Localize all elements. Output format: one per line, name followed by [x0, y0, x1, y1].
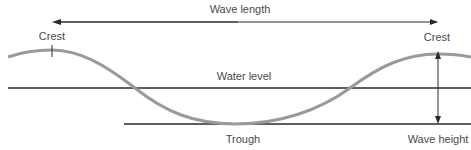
water-level-label: Water level	[217, 71, 272, 82]
wave-height-label: Wave height	[408, 134, 469, 145]
crest-right-label: Crest	[424, 32, 450, 43]
wave-length-arrow-left-head	[52, 19, 61, 25]
crest-left-label: Crest	[39, 31, 65, 42]
wave-length-label: Wave length	[210, 4, 271, 15]
wave-curve	[8, 50, 471, 124]
trough-label: Trough	[226, 134, 260, 145]
